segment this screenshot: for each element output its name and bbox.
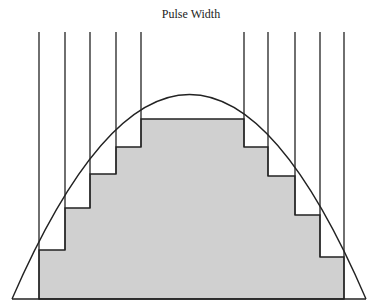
pwm-diagram (0, 0, 382, 308)
staircase-fill (39, 119, 344, 299)
